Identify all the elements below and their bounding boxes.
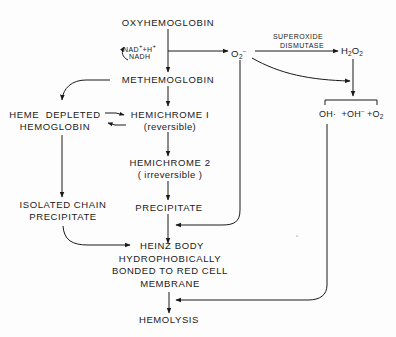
node-label: OXYHEMOGLOBIN [122, 17, 214, 28]
enzyme-label-line1: SUPEROXIDE [262, 32, 334, 41]
node-heme-depleted-hemoglobin: HEME DEPLETED HEMOGLOBIN [2, 109, 108, 133]
node-hemichrome-2: HEMICHROME 2 ( irreversible ) [122, 157, 218, 181]
node-oxyhemoglobin: OXYHEMOGLOBIN [118, 17, 218, 29]
node-hydrogen-peroxide: H2O2 [341, 45, 363, 60]
node-label-line2: HEMOGLOBIN [2, 121, 108, 133]
hydrogen-symbol: H [341, 45, 348, 56]
subscript: 2 [359, 50, 363, 57]
oxygen-symbol: O [231, 48, 239, 59]
diagram-canvas: OXYHEMOGLOBIN NAD++H+ NADH METHEMOGLOBIN… [0, 0, 396, 337]
nadh-text: NADH [129, 53, 150, 60]
node-label: HEMOLYSIS [139, 314, 199, 325]
node-label-line1: ISOLATED CHAIN [10, 199, 116, 211]
node-label-line2: HYDROPHOBICALLY [108, 253, 232, 266]
node-methemoglobin: METHEMOGLOBIN [113, 74, 223, 86]
node-isolated-chain-precipitate: ISOLATED CHAIN PRECIPITATE [10, 199, 116, 223]
node-label-line1: HEME DEPLETED [2, 109, 108, 121]
hydroxyl-radical: OH· [319, 109, 336, 119]
oxygen-molecule: +O [367, 109, 380, 119]
subscript: 2 [380, 113, 384, 120]
node-superoxide: O2− [231, 45, 246, 63]
hydroxide-ion: +OH [342, 109, 361, 119]
node-label-line4: MEMBRANE [108, 278, 232, 291]
arrow-superoxide-to-products [252, 58, 350, 81]
arrow-met-to-heme-depleted [62, 80, 110, 100]
charge: − [243, 48, 247, 54]
node-label-line1: HEMICHROME I [124, 109, 216, 121]
node-reactive-products: OH· +OH− +O2 [319, 105, 383, 123]
node-label-line1: HEINZ BODY [108, 240, 232, 253]
node-label: METHEMOGLOBIN [122, 74, 214, 85]
node-label-line2: PRECIPITATE [10, 211, 116, 223]
enzyme-superoxide-dismutase: SUPEROXIDE DISMUTASE [262, 32, 334, 50]
node-hemolysis: HEMOLYSIS [124, 314, 214, 326]
node-label-line2: ( irreversible ) [122, 169, 218, 181]
node-label: PRECIPITATE [135, 202, 202, 213]
cofactor-nadh: NADH [129, 52, 150, 61]
node-precipitate: PRECIPITATE [126, 202, 212, 214]
node-label-line3: BONDED TO RED CELL [108, 265, 232, 278]
proton-charge: + [152, 43, 156, 49]
node-heinz-body: HEINZ BODY HYDROPHOBICALLY BONDED TO RED… [108, 240, 232, 290]
enzyme-label-line2: DISMUTASE [262, 41, 334, 50]
node-label-line1: HEMICHROME 2 [122, 157, 218, 169]
subscript: 2 [239, 53, 243, 60]
node-label-line2: (reversible) [124, 121, 216, 133]
node-hemichrome-1: HEMICHROME I (reversible) [124, 109, 216, 133]
charge: − [361, 108, 365, 114]
